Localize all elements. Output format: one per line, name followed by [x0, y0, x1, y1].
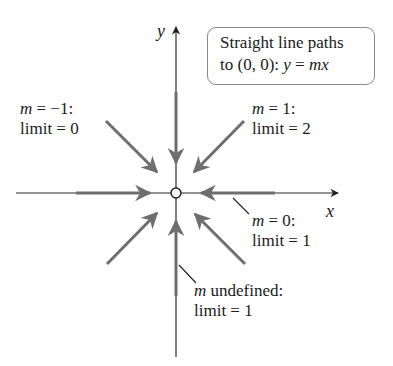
path-arrow-lower-right	[195, 214, 245, 264]
path-arrow-upper-left	[106, 121, 157, 172]
y-axis-label: y	[157, 21, 165, 42]
path-arrow-upper-right	[194, 121, 244, 172]
label-m-1: m = 1: limit = 2	[252, 99, 311, 139]
leader-line-m-0	[233, 198, 249, 214]
path-arrow-lower-left	[107, 213, 157, 264]
callout-box: Straight line paths to (0, 0): y = mx	[207, 27, 375, 85]
callout-line-2: to (0, 0): y = mx	[220, 54, 374, 76]
x-axis-label: x	[326, 201, 334, 222]
label-m-0: m = 0: limit = 1	[252, 211, 311, 251]
origin-open-circle	[171, 188, 181, 198]
label-m-neg-1: m = −1: limit = 0	[20, 99, 79, 139]
diagram-canvas: y x Straight line paths to (0, 0): y = m…	[0, 0, 393, 366]
callout-line-1: Straight line paths	[220, 32, 374, 54]
label-m-undefined: m undefined: limit = 1	[194, 281, 283, 321]
